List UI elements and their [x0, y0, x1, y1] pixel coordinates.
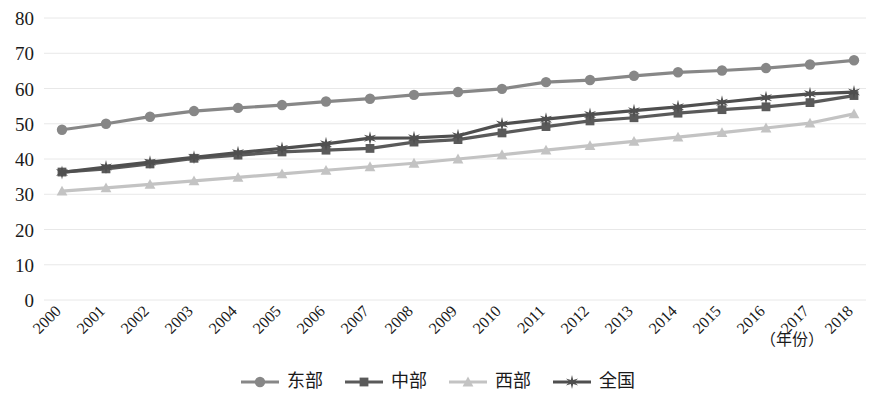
x-tick-label: 2003	[161, 302, 196, 337]
series-东部	[57, 55, 859, 135]
data-point-marker-circle	[629, 71, 639, 81]
data-point-marker-circle	[761, 63, 771, 73]
legend-label: 西部	[495, 371, 531, 391]
legend-item-东部[interactable]: 东部	[241, 371, 323, 391]
x-tick-label: 2013	[601, 302, 636, 337]
data-point-marker-circle	[321, 96, 331, 106]
legend: 东部中部西部全国	[241, 371, 635, 391]
data-point-marker-circle	[277, 100, 287, 110]
y-tick-label: 50	[15, 114, 34, 135]
data-point-marker-circle	[189, 106, 199, 116]
data-point-marker-circle	[57, 125, 67, 135]
y-tick-label: 30	[15, 184, 34, 205]
data-point-marker-circle	[585, 75, 595, 85]
x-axis-unit-label: （年份）	[760, 331, 824, 348]
data-point-marker-circle	[233, 103, 243, 113]
x-tick-label: 2002	[117, 302, 152, 337]
y-axis-tick-labels: 01020304050607080	[15, 8, 34, 311]
data-point-marker-square	[360, 378, 369, 387]
x-tick-label: 2000	[29, 302, 64, 337]
y-tick-label: 80	[15, 8, 34, 29]
data-point-marker-circle	[717, 65, 727, 75]
x-tick-label: 2012	[557, 302, 592, 337]
data-point-marker-square	[366, 144, 375, 153]
x-tick-label: 2009	[425, 302, 460, 337]
chart-canvas: 01020304050607080 2000200120022003200420…	[0, 0, 876, 400]
line-chart-container: 01020304050607080 2000200120022003200420…	[0, 0, 876, 400]
legend-label: 全国	[599, 371, 635, 391]
data-point-marker-circle	[453, 87, 463, 97]
x-tick-label: 2004	[205, 302, 240, 337]
legend-label: 中部	[391, 371, 427, 391]
data-point-marker-circle	[255, 377, 265, 387]
x-tick-label: 2018	[821, 302, 856, 337]
y-tick-label: 20	[15, 220, 34, 241]
x-tick-label: 2011	[514, 302, 548, 336]
y-tick-label: 60	[15, 79, 34, 100]
y-tick-label: 10	[15, 255, 34, 276]
x-tick-label: 2007	[337, 302, 372, 337]
data-series	[56, 55, 860, 195]
series-西部	[57, 108, 860, 195]
data-point-marker-circle	[365, 94, 375, 104]
x-tick-label: 2010	[469, 302, 504, 337]
x-tick-label: 2015	[689, 302, 724, 337]
x-tick-label: 2014	[645, 302, 680, 337]
data-point-marker-circle	[497, 84, 507, 94]
legend-item-西部[interactable]: 西部	[449, 371, 531, 391]
data-point-marker-circle	[849, 55, 859, 65]
legend-item-中部[interactable]: 中部	[345, 371, 427, 391]
x-tick-label: 2006	[293, 302, 328, 337]
y-tick-label: 70	[15, 43, 34, 64]
series-line	[62, 114, 854, 191]
legend-label: 东部	[287, 371, 323, 391]
data-point-marker-circle	[541, 77, 551, 87]
data-point-marker-circle	[409, 90, 419, 100]
legend-item-全国[interactable]: 全国	[553, 371, 635, 391]
y-tick-label: 40	[15, 149, 34, 170]
y-tick-label: 0	[25, 290, 35, 311]
x-tick-label: 2001	[73, 302, 108, 337]
x-axis-tick-labels: 2000200120022003200420052006200720082009…	[29, 302, 856, 337]
data-point-marker-circle	[805, 59, 815, 69]
x-tick-label: 2005	[249, 302, 284, 337]
x-tick-label: 2008	[381, 302, 416, 337]
data-point-marker-circle	[145, 112, 155, 122]
data-point-marker-circle	[101, 119, 111, 129]
data-point-marker-circle	[673, 67, 683, 77]
